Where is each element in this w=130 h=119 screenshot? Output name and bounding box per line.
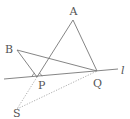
segment-BQ bbox=[17, 50, 97, 71]
segment-AP bbox=[37, 20, 73, 77]
label-S: S bbox=[13, 107, 21, 119]
label-A: A bbox=[69, 5, 79, 18]
label-l: l bbox=[121, 64, 125, 77]
label-P: P bbox=[38, 79, 46, 92]
segment-AQ bbox=[73, 20, 97, 71]
label-B: B bbox=[5, 43, 13, 56]
geometry-diagram: A B P Q S l bbox=[0, 0, 130, 119]
label-Q: Q bbox=[93, 77, 102, 90]
